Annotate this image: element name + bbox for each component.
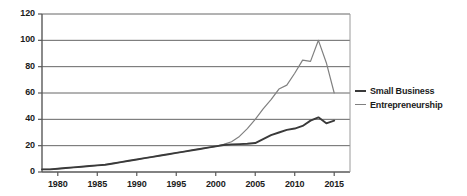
y-axis-tick-label: 80 [11,61,35,71]
y-axis-tick-label: 40 [11,113,35,123]
legend-swatch-entrepreneurship [355,104,366,105]
legend-label-entrepreneurship: Entrepreneurship [370,100,443,110]
x-axis-tick-label: 2005 [238,179,272,189]
series-line-small-business [42,117,334,169]
x-axis-tick-label: 1985 [80,179,114,189]
x-axis-tick-label: 2015 [317,179,351,189]
y-axis-tick-label: 20 [11,140,35,150]
x-axis-tick-label: 1995 [159,179,193,189]
line-chart: 120100806040200 198019851990199520002005… [0,0,467,196]
x-axis-tick-label: 1990 [120,179,154,189]
x-axis-tick-label: 2000 [199,179,233,189]
y-axis-tick-label: 100 [11,34,35,44]
data-series [42,40,334,169]
legend-item-small-business: Small Business [355,84,465,97]
chart-legend: Small Business Entrepreneurship [355,84,465,112]
x-axis-tick-label: 1980 [41,179,75,189]
y-axis-tick-label: 120 [11,8,35,18]
x-axis-tick-label: 2010 [278,179,312,189]
legend-item-entrepreneurship: Entrepreneurship [355,98,465,111]
y-axis-tick-label: 0 [11,166,35,176]
legend-swatch-small-business [355,90,366,92]
y-axis-tick-label: 60 [11,87,35,97]
legend-label-small-business: Small Business [370,86,434,96]
